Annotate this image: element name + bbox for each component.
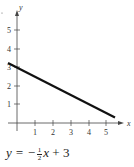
x-tick-label: 5 [104,128,108,137]
line-series [8,63,115,118]
x-tick-label: 4 [87,128,91,137]
x-tick-label: 1 [33,128,37,137]
equation-suffix: + 3 [49,145,69,160]
y-tick-label: 2 [7,82,11,91]
y-axis-label: y [18,3,23,12]
y-tick-label: 4 [7,45,11,54]
corner-dot [1,12,2,13]
x-axis-label: x [126,119,131,128]
x-tick-label: 2 [51,128,55,137]
fraction-denominator: 2 [37,155,43,162]
x-axis-arrow-icon [118,121,124,125]
y-tick-label: 5 [7,26,11,35]
equation-fraction: 12 [37,147,43,162]
equation-caption: y = −12x + 3 [6,145,69,162]
equation-prefix: y = − [6,145,36,160]
y-tick-label: 1 [7,100,11,109]
x-tick-label: 3 [69,128,73,137]
line-chart: 1 2 3 4 5 x 1 2 3 4 5 y [0,0,134,167]
